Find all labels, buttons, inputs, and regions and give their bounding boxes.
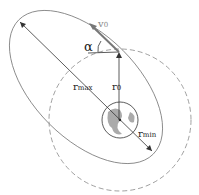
v0-label: v0: [98, 19, 108, 29]
alpha-label: α: [84, 40, 93, 53]
alpha-arc: [98, 41, 101, 52]
rmax-label: rmax: [73, 82, 93, 92]
r0-label: r0: [112, 82, 121, 92]
orbit-diagram: [0, 0, 199, 195]
r0-arrowhead: [116, 52, 122, 58]
velocity-vector: [92, 26, 119, 52]
rmin-label: rmin: [138, 129, 156, 139]
